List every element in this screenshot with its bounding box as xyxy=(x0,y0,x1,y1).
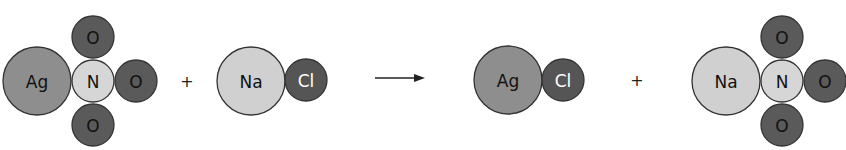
atom-na: Na xyxy=(692,47,760,115)
atom-o: O xyxy=(761,104,803,146)
atom-n: N xyxy=(761,60,803,102)
atom-label: Na xyxy=(239,72,262,92)
atom-label: Ag xyxy=(497,71,519,91)
plus-sign-reactants: + xyxy=(180,72,193,91)
molecule-silver-nitrate: AgNOOO xyxy=(3,16,157,146)
atom-label: O xyxy=(86,28,99,48)
molecule-sodium-chloride: NaCl xyxy=(217,47,327,115)
atom-ag: Ag xyxy=(3,47,71,115)
atom-o: O xyxy=(804,60,846,102)
atom-label: Cl xyxy=(555,71,572,91)
atom-na: Na xyxy=(217,47,285,115)
atom-o: O xyxy=(72,104,114,146)
atom-n: N xyxy=(72,60,114,102)
molecule-sodium-nitrate: NaNOOO xyxy=(692,16,846,146)
reaction-diagram: AgNOOO + NaCl AgCl + NaNOOO xyxy=(0,0,846,150)
plus-sign-products: + xyxy=(630,71,643,90)
atom-label: Cl xyxy=(298,71,315,91)
atom-label: O xyxy=(775,28,788,48)
atom-cl: Cl xyxy=(542,59,584,101)
atom-o: O xyxy=(72,16,114,58)
atom-label: N xyxy=(776,72,789,92)
atom-label: Ag xyxy=(26,72,48,92)
atom-label: O xyxy=(818,72,831,92)
atom-label: O xyxy=(86,116,99,136)
atom-label: O xyxy=(129,72,142,92)
atom-label: N xyxy=(87,72,100,92)
atom-ag: Ag xyxy=(474,46,542,114)
atom-cl: Cl xyxy=(285,59,327,101)
atom-label: O xyxy=(775,116,788,136)
atom-o: O xyxy=(115,60,157,102)
atom-label: Na xyxy=(714,72,737,92)
molecule-silver-chloride: AgCl xyxy=(474,46,584,114)
reaction-arrow-icon xyxy=(375,74,425,82)
atom-o: O xyxy=(761,16,803,58)
